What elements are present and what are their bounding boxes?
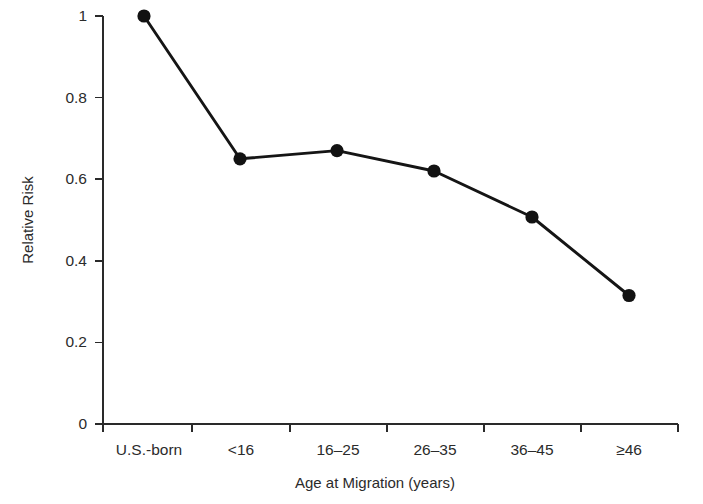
y-tick-label-0.6: 0.6 (65, 170, 87, 187)
data-point-16-25 (330, 144, 343, 157)
chart-background (0, 0, 703, 504)
relative-risk-line-chart: 1 0.8 0.6 0.4 0.2 0 U.S.-born <16 16–25 … (0, 0, 703, 504)
y-tick-label-0.2: 0.2 (65, 333, 87, 350)
data-point-under-16 (233, 152, 246, 165)
x-tick-label-under-16: <16 (228, 441, 254, 458)
y-tick-label-0.8: 0.8 (65, 89, 87, 106)
y-axis-title: Relative Risk (19, 176, 36, 264)
y-tick-label-0: 0 (78, 415, 87, 432)
data-point-us-born (137, 9, 150, 22)
data-point-26-35 (427, 164, 440, 177)
x-tick-label-26-35: 26–35 (413, 441, 456, 458)
data-point-36-45 (525, 210, 538, 223)
x-tick-label-16-25: 16–25 (316, 441, 359, 458)
data-point-46-plus (622, 289, 635, 302)
y-tick-label-1: 1 (78, 7, 87, 24)
x-tick-label-us-born: U.S.-born (116, 441, 182, 458)
x-axis-title: Age at Migration (years) (295, 474, 455, 491)
x-tick-label-36-45: 36–45 (510, 441, 553, 458)
y-tick-label-0.4: 0.4 (65, 252, 87, 269)
x-tick-label-46-plus: ≥46 (616, 441, 642, 458)
